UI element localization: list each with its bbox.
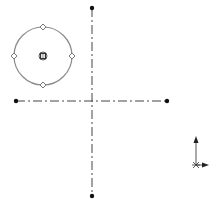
quadrant-handle-left-icon[interactable] — [11, 53, 17, 59]
endpoint-top[interactable] — [90, 6, 94, 10]
coordinate-triad-icon — [192, 136, 209, 168]
sketch-circle[interactable] — [14, 27, 72, 85]
circle-center-point-icon[interactable] — [39, 52, 47, 60]
quadrant-handle-bottom-icon[interactable] — [40, 82, 46, 88]
quadrant-handle-right-icon[interactable] — [69, 53, 75, 59]
endpoint-right[interactable] — [165, 99, 169, 103]
quadrant-handle-top-icon[interactable] — [40, 24, 46, 30]
sketch-canvas[interactable] — [0, 0, 218, 218]
endpoint-bottom[interactable] — [90, 194, 94, 198]
endpoint-left[interactable] — [14, 99, 18, 103]
